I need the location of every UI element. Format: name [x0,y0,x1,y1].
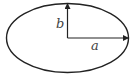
label-b: b [56,16,64,31]
label-a: a [91,38,99,53]
ellipse-diagram: b a [0,0,135,76]
